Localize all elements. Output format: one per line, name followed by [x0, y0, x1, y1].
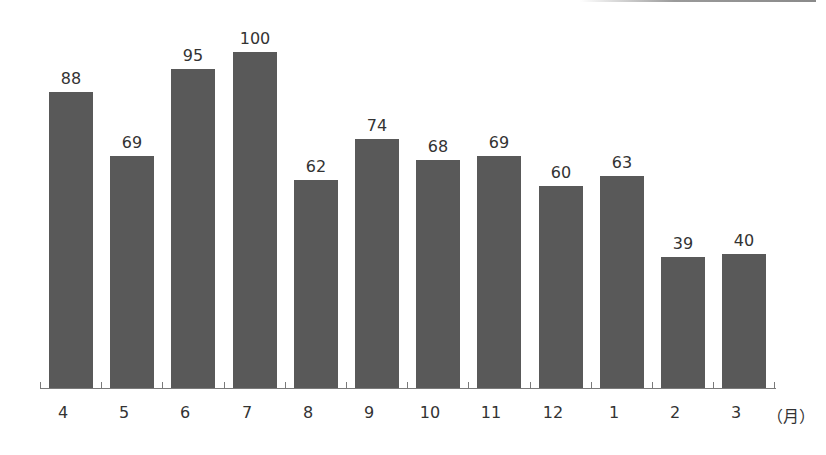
- bar-month-5: [110, 156, 154, 388]
- bar-value-label: 63: [592, 153, 652, 172]
- x-axis-tick-label: 10: [410, 403, 450, 422]
- x-axis-tick: [40, 382, 41, 389]
- bar-value-label: 40: [714, 231, 774, 250]
- x-axis-line: [40, 388, 776, 389]
- bar-value-label: 68: [408, 137, 468, 156]
- x-axis-tick: [162, 382, 163, 389]
- x-axis-tick-label: 8: [288, 403, 328, 422]
- x-axis-tick-label: 2: [655, 403, 695, 422]
- bar-month-6: [171, 69, 215, 388]
- bar-month-3: [722, 254, 766, 388]
- bar-month-2: [661, 257, 705, 388]
- x-axis-tick-label: 11: [471, 403, 511, 422]
- x-axis-tick-label: 7: [227, 403, 267, 422]
- x-axis-tick-label: 1: [594, 403, 634, 422]
- bar-value-label: 60: [531, 163, 591, 182]
- x-axis-tick: [407, 382, 408, 389]
- x-axis-tick: [530, 382, 531, 389]
- bar-value-label: 69: [469, 133, 529, 152]
- bar-month-1: [600, 176, 644, 388]
- bar-month-12: [539, 186, 583, 388]
- bar-month-4: [49, 92, 93, 388]
- x-axis-tick: [101, 382, 102, 389]
- x-axis-tick-label: 4: [43, 403, 83, 422]
- bar-month-10: [416, 160, 460, 388]
- x-axis-tick-label: 9: [349, 403, 389, 422]
- x-axis-tick: [224, 382, 225, 389]
- x-axis-tick-label: 6: [165, 403, 205, 422]
- x-axis-tick-label: 5: [104, 403, 144, 422]
- bar-value-label: 62: [286, 157, 346, 176]
- x-axis-tick-label: 12: [533, 403, 573, 422]
- x-axis-tick: [652, 382, 653, 389]
- bar-value-label: 39: [653, 234, 713, 253]
- bar-value-label: 88: [41, 69, 101, 88]
- bar-month-7: [233, 52, 277, 388]
- x-axis-tick: [713, 382, 714, 389]
- bar-value-label: 74: [347, 116, 407, 135]
- x-axis-tick: [346, 382, 347, 389]
- bar-value-label: 100: [225, 29, 285, 48]
- x-axis-tick: [285, 382, 286, 389]
- x-axis-unit-label: （月）: [767, 403, 815, 427]
- x-axis-tick-label: 3: [716, 403, 756, 422]
- bar-value-label: 95: [163, 46, 223, 65]
- bar-value-label: 69: [102, 133, 162, 152]
- monthly-bar-chart: （月） 884695956100762874968106911601263139…: [0, 0, 826, 455]
- x-axis-tick: [774, 382, 775, 389]
- x-axis-tick: [591, 382, 592, 389]
- bar-month-11: [477, 156, 521, 388]
- bar-month-8: [294, 180, 338, 388]
- bar-month-9: [355, 139, 399, 388]
- x-axis-tick: [468, 382, 469, 389]
